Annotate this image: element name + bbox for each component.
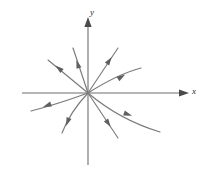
trajectory-ray-lower-right	[88, 93, 118, 138]
y-axis-label: y	[90, 8, 94, 17]
phase-portrait-figure: x y	[0, 0, 216, 174]
axes-group	[22, 17, 189, 165]
x-axis-arrowhead	[179, 89, 189, 96]
x-axis-label: x	[192, 87, 196, 96]
flow-arrow-ray-lower-right	[104, 119, 113, 129]
flow-arrow-curve-left-lower	[42, 102, 52, 110]
phase-portrait-canvas	[0, 0, 216, 174]
trajectory-curve-lower-left	[62, 93, 88, 133]
y-axis-arrowhead	[84, 17, 91, 27]
trajectory-curve-lower-right	[88, 93, 160, 132]
trajectory-ray-upper-right-steep	[88, 48, 118, 93]
